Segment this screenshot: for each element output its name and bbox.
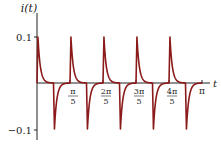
x-tick-label-denominator: 5: [70, 97, 75, 106]
y-tick-label-bottom: −0.1: [8, 125, 32, 136]
x-tick-label-denominator: 5: [136, 97, 141, 106]
x-tick-label-pi: π: [199, 86, 205, 96]
x-tick-label-numerator: 4π: [167, 87, 177, 96]
x-tick-label-numerator: 3π: [134, 87, 144, 96]
y-axis-label: i(t): [21, 2, 38, 15]
x-tick-label-numerator: 2π: [101, 87, 111, 96]
x-tick-label-denominator: 5: [103, 97, 108, 106]
x-tick-label-numerator: π: [70, 87, 75, 96]
x-tick-label-denominator: 5: [169, 97, 174, 106]
current-waveform-chart: i(t) 0.1 −0.1 t π52π53π54π5π: [0, 0, 221, 145]
y-tick-label-top: 0.1: [16, 32, 32, 43]
x-ticks: π52π53π54π5π: [68, 80, 205, 106]
x-axis-label: t: [213, 78, 218, 89]
